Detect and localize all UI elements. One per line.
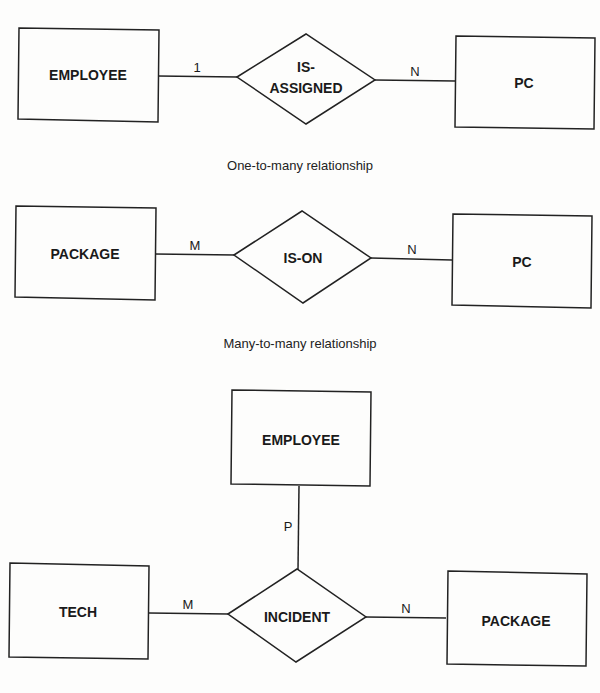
cardinality-n: N	[401, 601, 410, 616]
cardinality-m: M	[190, 238, 201, 253]
entity-employee-label: EMPLOYEE	[49, 67, 127, 83]
entity-package-label: PACKAGE	[482, 613, 551, 629]
connector-incident-package	[366, 617, 446, 618]
entity-pc-label: PC	[512, 254, 531, 270]
entity-tech-label: TECH	[59, 604, 97, 620]
entity-package-label: PACKAGE	[51, 246, 120, 262]
entity-employee-label: EMPLOYEE	[262, 432, 340, 448]
connector-employee-incident	[298, 486, 299, 570]
relationship-incident-label: INCIDENT	[264, 609, 331, 625]
diagram-one-to-many: EMPLOYEE 1 IS- ASSIGNED N PC One-to-many…	[18, 28, 595, 173]
er-diagram-canvas: EMPLOYEE 1 IS- ASSIGNED N PC One-to-many…	[0, 0, 600, 693]
connector-isassigned-pc	[375, 80, 455, 81]
relationship-isassigned-diamond	[237, 34, 375, 124]
connector-employee-isassigned	[158, 76, 237, 77]
caption-many-to-many: Many-to-many relationship	[223, 336, 376, 351]
diagram-ternary: EMPLOYEE P INCIDENT TECH M N PACKAGE	[9, 390, 587, 666]
cardinality-n: N	[410, 64, 419, 79]
diagram-many-to-many: PACKAGE M IS-ON N PC Many-to-many relati…	[15, 206, 592, 351]
cardinality-p: P	[284, 519, 293, 534]
entity-pc-label: PC	[514, 75, 533, 91]
relationship-isassigned-label-line2: ASSIGNED	[269, 80, 342, 96]
cardinality-1: 1	[193, 60, 200, 75]
relationship-isassigned-label-line1: IS-	[297, 59, 315, 75]
connector-tech-incident	[149, 613, 228, 614]
connector-ison-pc	[371, 258, 452, 260]
caption-one-to-many: One-to-many relationship	[227, 158, 373, 173]
connector-package-ison	[155, 254, 235, 255]
cardinality-m: M	[183, 597, 194, 612]
cardinality-n: N	[407, 242, 416, 257]
relationship-ison-label: IS-ON	[284, 250, 323, 266]
